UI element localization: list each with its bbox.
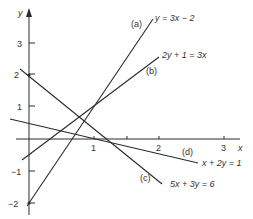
y-axis-arrow-icon [26, 8, 32, 17]
line-a-equation: y = 3x − 2 [154, 13, 195, 23]
line-a-tag: (a) [131, 19, 142, 29]
y-tick-2: 2 [14, 70, 19, 80]
y-axis-label: y [17, 8, 23, 18]
y-tick-3: 3 [17, 39, 22, 49]
y-tick-minus-2: −2 [8, 199, 18, 209]
y-tick-minus-1: −1 [11, 167, 21, 177]
line-d-tag: (d) [182, 147, 193, 157]
intercept-dot-c [28, 74, 31, 77]
x-tick-1: 1 [91, 143, 96, 153]
line-c-tag: (c) [140, 173, 151, 183]
intercept-dot-a [28, 202, 31, 205]
x-tick-2: 2 [156, 143, 161, 153]
line-a [27, 19, 153, 206]
x-tick-3: 3 [221, 143, 226, 153]
y-tick-1: 1 [17, 102, 22, 112]
line-c-equation: 5x + 3y = 6 [170, 179, 215, 189]
linear-equations-graph: 1 2 3 x 3 2 1 −1 −2 y (a) y = 3x − 2 (b)… [0, 0, 253, 219]
line-b-equation: 2y + 1 = 3x [161, 50, 207, 60]
line-d [10, 119, 198, 163]
line-d-equation: x + 2y = 1 [201, 158, 242, 168]
line-b-tag: (b) [146, 66, 157, 76]
x-axis-label: x [237, 143, 243, 153]
